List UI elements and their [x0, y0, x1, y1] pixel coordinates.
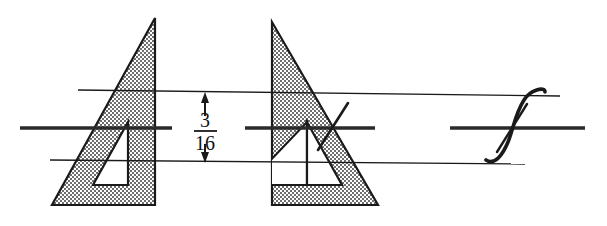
technical-drawing-canvas: 3 16 [0, 0, 607, 226]
dimension-denominator: 16 [195, 132, 215, 154]
figure-root: 3 16 [0, 0, 607, 226]
dimension-numerator: 3 [200, 109, 210, 131]
